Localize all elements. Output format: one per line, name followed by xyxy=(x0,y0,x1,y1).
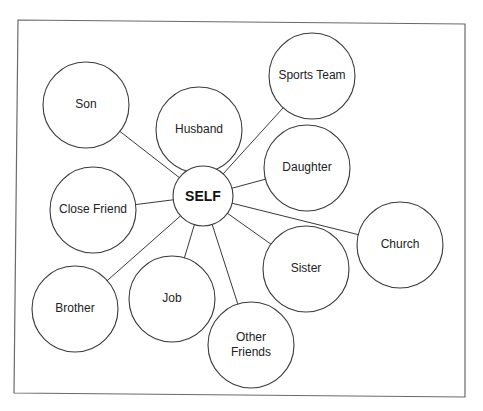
close-friend-label: Close Friend xyxy=(59,202,127,216)
node-husband: Husband xyxy=(156,87,242,173)
other-friends-label: Other xyxy=(236,330,266,344)
relationship-diagram: SonHusbandSports TeamDaughterClose Frien… xyxy=(0,0,483,411)
node-close-friend: Close Friend xyxy=(50,167,136,253)
daughter-label: Daughter xyxy=(282,160,331,174)
sports-team-label: Sports Team xyxy=(278,68,345,82)
sister-label: Sister xyxy=(291,261,322,275)
node-sports-team: Sports Team xyxy=(269,33,355,119)
node-other-friends: OtherFriends xyxy=(208,302,294,388)
other-friends-label: Friends xyxy=(231,345,271,359)
husband-label: Husband xyxy=(175,122,223,136)
figure-caption-cutoff xyxy=(12,405,212,411)
brother-label: Brother xyxy=(55,301,94,315)
node-job: Job xyxy=(129,256,215,342)
node-sister: Sister xyxy=(263,226,349,312)
son-label: Son xyxy=(75,97,96,111)
node-son: Son xyxy=(43,62,129,148)
church-label: Church xyxy=(381,237,420,251)
self-label: SELF xyxy=(185,188,221,204)
nodes-group: SonHusbandSports TeamDaughterClose Frien… xyxy=(32,33,443,388)
node-church: Church xyxy=(357,202,443,288)
node-self: SELF xyxy=(173,166,233,226)
job-label: Job xyxy=(162,291,182,305)
node-brother: Brother xyxy=(32,266,118,352)
node-daughter: Daughter xyxy=(264,125,350,211)
